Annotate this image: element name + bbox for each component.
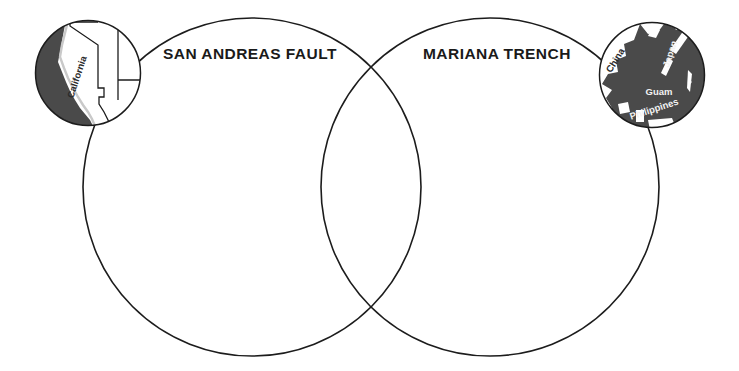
venn-right-circle-label: MARIANA TRENCH xyxy=(423,45,571,63)
western-pacific-inset-content: China Japan Guam Philippines xyxy=(598,20,708,130)
venn-diagram-worksheet: California xyxy=(0,0,739,371)
inset-label-guam: Guam xyxy=(646,86,673,97)
western-pacific-inset-map: China Japan Guam Philippines xyxy=(0,0,739,371)
venn-left-circle-label: SAN ANDREAS FAULT xyxy=(163,45,337,63)
